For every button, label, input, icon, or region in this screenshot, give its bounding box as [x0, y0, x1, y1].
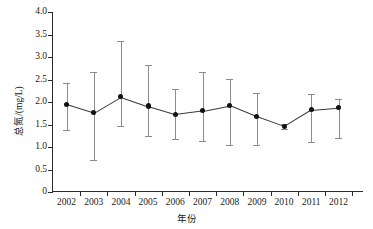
error-bar [121, 41, 122, 126]
series-line-segment [121, 97, 149, 107]
error-bar-cap-upper [172, 89, 179, 90]
data-point-marker [64, 102, 69, 107]
x-axis-tick [325, 191, 326, 196]
y-axis-tick-label: 1.5 [19, 119, 47, 129]
error-bar [257, 93, 258, 145]
series-line-segment [94, 97, 122, 114]
x-axis-tick-label: 2012 [319, 197, 359, 207]
y-axis-tick-label: 0 [19, 186, 47, 196]
y-axis-tick [48, 12, 53, 13]
error-bar-cap-upper [63, 83, 70, 84]
y-axis-tick-label: 3.0 [19, 51, 47, 61]
error-bar-cap-upper [335, 99, 342, 100]
data-point-marker [336, 105, 341, 110]
y-axis-tick-label: 0.5 [19, 164, 47, 174]
plot-area: 00.51.01.52.02.53.03.54.0200220032004200… [52, 12, 363, 192]
error-bar-cap-upper [308, 94, 315, 95]
x-axis-tick [107, 191, 108, 196]
x-axis-tick [298, 191, 299, 196]
error-bar [311, 94, 312, 141]
error-bar-cap-upper [226, 79, 233, 80]
data-point-marker [282, 124, 287, 129]
y-axis-tick [48, 57, 53, 58]
y-axis-tick-label: 3.5 [19, 29, 47, 39]
data-point-marker [91, 110, 96, 115]
series-line-segment [284, 110, 312, 128]
x-axis-tick [216, 191, 217, 196]
x-axis-title: 年份 [0, 211, 373, 225]
error-bar-cap-lower [253, 145, 260, 146]
error-bar-cap-lower [335, 138, 342, 139]
x-axis-tick [80, 191, 81, 196]
data-point-marker [227, 103, 232, 108]
y-axis-tick [48, 170, 53, 171]
error-bar-cap-upper [117, 41, 124, 42]
error-bar-cap-lower [90, 160, 97, 161]
series-line-segment [311, 107, 338, 110]
y-axis-tick [48, 35, 53, 36]
error-bar [148, 65, 149, 136]
y-axis-tick-label: 1.0 [19, 141, 47, 151]
data-point-marker [173, 112, 178, 117]
y-axis-tick [48, 125, 53, 126]
data-point-marker [309, 107, 314, 112]
error-bar-cap-upper [145, 65, 152, 66]
x-axis-tick [135, 191, 136, 196]
error-bar-cap-upper [199, 72, 206, 73]
x-axis-tick [162, 191, 163, 196]
error-bar-cap-upper [90, 72, 97, 73]
error-bar-cap-lower [172, 139, 179, 140]
y-axis-tick [48, 102, 53, 103]
data-point-marker [200, 108, 205, 113]
error-bar-cap-lower [308, 142, 315, 143]
series-line-segment [66, 104, 93, 114]
y-axis-tick [48, 80, 53, 81]
error-bar-cap-lower [63, 130, 70, 131]
y-axis-title: 总氮/(mg/L) [11, 51, 25, 171]
error-bar-cap-lower [199, 141, 206, 142]
y-axis-tick-label: 2.0 [19, 96, 47, 106]
series-line-segment [229, 105, 257, 117]
error-bar-cap-lower [117, 126, 124, 127]
x-axis-tick [189, 191, 190, 196]
series-line-segment [175, 111, 202, 116]
y-axis-tick [48, 192, 53, 193]
error-bar [94, 72, 95, 160]
x-axis-tick [271, 191, 272, 196]
error-bar-cap-lower [226, 145, 233, 146]
x-axis-tick [352, 191, 353, 196]
y-axis-tick [48, 147, 53, 148]
chart-container: 总氮/(mg/L) 00.51.01.52.02.53.03.54.020022… [0, 0, 373, 229]
series-line-segment [203, 105, 230, 111]
data-point-marker [146, 103, 151, 108]
x-axis-tick [243, 191, 244, 196]
y-axis-tick-label: 4.0 [19, 6, 47, 16]
data-point-marker [254, 114, 259, 119]
series-line-segment [257, 116, 285, 127]
series-line-segment [148, 106, 175, 115]
error-bar [203, 72, 204, 141]
y-axis-tick-label: 2.5 [19, 74, 47, 84]
error-bar-cap-lower [145, 136, 152, 137]
error-bar [230, 79, 231, 146]
error-bar-cap-upper [253, 93, 260, 94]
